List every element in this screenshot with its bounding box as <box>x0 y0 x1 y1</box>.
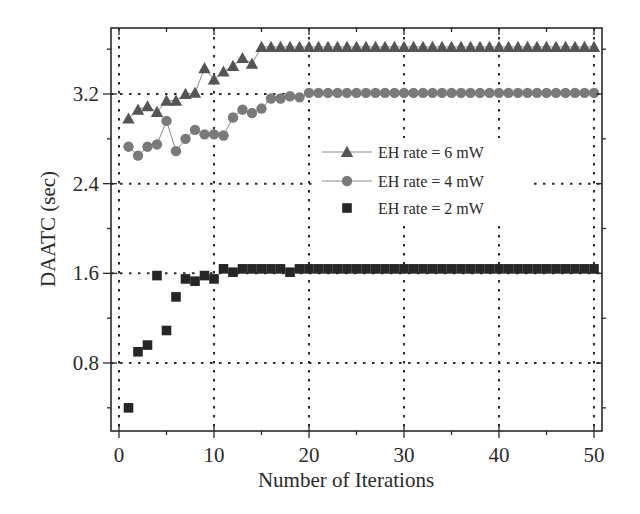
square-data-point <box>513 264 523 274</box>
square-data-point <box>371 264 381 274</box>
square-data-point <box>133 347 143 357</box>
circle-data-point <box>446 88 456 98</box>
circle-data-point <box>266 93 276 103</box>
y-tick-label: 1.6 <box>73 261 99 285</box>
square-data-point <box>561 264 571 274</box>
square-data-point <box>570 264 580 274</box>
legend-label: EH rate = 4 mW <box>378 173 485 190</box>
circle-data-point <box>532 88 542 98</box>
circle-data-point <box>351 88 361 98</box>
circle-data-point <box>579 88 589 98</box>
square-data-point <box>580 264 590 274</box>
circle-data-point <box>313 88 323 98</box>
circle-data-point <box>199 129 209 139</box>
square-data-point <box>219 264 229 274</box>
square-data-point <box>399 264 409 274</box>
circle-data-point <box>589 88 599 98</box>
circle-data-point <box>570 88 580 98</box>
x-tick-label: 40 <box>489 443 510 467</box>
square-data-point <box>589 264 599 274</box>
x-tick-label: 30 <box>394 443 415 467</box>
square-data-point <box>143 340 153 350</box>
circle-data-point <box>323 88 333 98</box>
circle-data-point <box>209 129 219 139</box>
series-square <box>124 264 599 413</box>
triangle-data-point <box>170 95 182 106</box>
square-data-point <box>542 264 552 274</box>
y-axis-tick-labels: 0.81.62.43.2 <box>73 82 100 375</box>
circle-data-point <box>304 88 314 98</box>
chart: 01020304050 0.81.62.43.2 Number of Itera… <box>0 0 640 514</box>
x-axis-tick-labels: 01020304050 <box>114 443 605 467</box>
square-data-point <box>295 264 305 274</box>
series-line <box>129 47 595 119</box>
square-data-point <box>361 264 371 274</box>
circle-data-point <box>361 88 371 98</box>
y-tick-label: 3.2 <box>73 82 99 106</box>
circle-data-point <box>503 88 513 98</box>
triangle-data-point <box>132 103 144 114</box>
legend: EH rate = 6 mWEH rate = 4 mWEH rate = 2 … <box>318 138 530 220</box>
triangle-data-point <box>588 41 600 52</box>
y-tick-label: 0.8 <box>73 351 99 375</box>
square-data-point <box>323 264 333 274</box>
square-data-point <box>428 264 438 274</box>
square-data-point <box>152 271 162 281</box>
square-data-point <box>551 264 561 274</box>
square-data-point <box>447 264 457 274</box>
circle-data-point <box>161 116 171 126</box>
circle-data-point <box>180 134 190 144</box>
circle-data-point <box>475 88 485 98</box>
square-data-point <box>257 264 267 274</box>
square-data-point <box>171 292 181 302</box>
circle-data-point <box>152 139 162 149</box>
circle-data-point <box>332 88 342 98</box>
circle-data-point <box>275 93 285 103</box>
legend-label: EH rate = 2 mW <box>378 200 485 217</box>
y-tick-label: 2.4 <box>73 172 100 196</box>
circle-data-point <box>427 88 437 98</box>
square-data-point <box>418 264 428 274</box>
y-axis-title: DAATC (sec) <box>36 171 60 287</box>
circle-data-point <box>237 104 247 114</box>
square-data-point <box>276 264 286 274</box>
circle-data-point <box>370 88 380 98</box>
circle-data-point <box>142 141 152 151</box>
square-data-point <box>285 267 295 277</box>
triangle-data-point <box>141 100 153 111</box>
square-data-point <box>380 264 390 274</box>
square-data-point <box>466 264 476 274</box>
circle-data-point <box>465 88 475 98</box>
square-data-point <box>181 274 191 284</box>
square-data-point <box>314 264 324 274</box>
circle-data-point <box>560 88 570 98</box>
circle-data-point <box>541 88 551 98</box>
circle-data-point <box>218 130 228 140</box>
x-tick-label: 20 <box>299 443 320 467</box>
square-data-point <box>352 264 362 274</box>
circle-data-point <box>522 88 532 98</box>
square-data-point <box>124 403 134 413</box>
square-data-point <box>409 264 419 274</box>
circle-data-point <box>133 150 143 160</box>
circle-data-point <box>494 88 504 98</box>
triangle-data-point <box>246 58 258 69</box>
square-data-point <box>228 267 238 277</box>
circle-data-point <box>123 141 133 151</box>
circle-data-point <box>399 88 409 98</box>
circle-data-point <box>294 92 304 102</box>
circle-data-point <box>408 88 418 98</box>
square-data-point <box>532 264 542 274</box>
legend-label: EH rate = 6 mW <box>378 144 485 161</box>
legend-square-icon <box>342 203 352 213</box>
square-data-point <box>200 271 210 281</box>
circle-data-point <box>380 88 390 98</box>
series-triangle <box>122 41 600 124</box>
circle-data-point <box>247 108 257 118</box>
square-data-point <box>238 264 248 274</box>
data-series <box>122 41 600 413</box>
square-data-point <box>162 326 172 336</box>
square-data-point <box>333 264 343 274</box>
x-tick-label: 0 <box>114 443 125 467</box>
square-data-point <box>209 274 219 284</box>
